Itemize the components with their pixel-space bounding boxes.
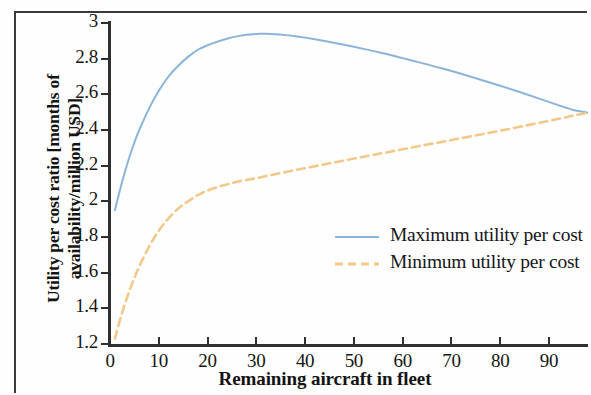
chart-figure: 1.21.41.61.822.22.42.62.83 0102030405060… (0, 0, 591, 395)
y-axis-title-line1: Utility per cost ratio [months of (43, 24, 64, 354)
y-axis-title-line2: availability/million USD] (64, 24, 85, 354)
x-tick-label: 90 (540, 350, 558, 372)
y-tick (101, 343, 108, 345)
legend-label: Maximum utility per cost (390, 224, 583, 246)
legend-swatch-solid-icon (334, 229, 380, 241)
x-axis-title: Remaining aircraft in fleet (110, 368, 540, 390)
y-tick (101, 58, 108, 60)
legend-item[interactable]: Maximum utility per cost (334, 221, 584, 248)
y-tick (101, 200, 108, 202)
y-tick (101, 307, 108, 309)
chart-legend: Maximum utility per costMinimum utility … (334, 221, 584, 275)
y-tick (101, 22, 108, 24)
legend-item[interactable]: Minimum utility per cost (334, 248, 584, 275)
legend-swatch-dashed-icon (334, 256, 380, 268)
legend-label: Minimum utility per cost (390, 251, 580, 273)
y-tick (101, 165, 108, 167)
y-tick (101, 93, 108, 95)
y-axis-title: Utility per cost ratio [months of availa… (43, 24, 84, 354)
y-tick (101, 129, 108, 131)
y-tick-label: 3 (89, 10, 98, 32)
series-curves (110, 23, 588, 344)
x-axis-line (108, 344, 588, 347)
y-tick (101, 236, 108, 238)
y-tick (101, 272, 108, 274)
y-tick-label: 2 (89, 188, 98, 210)
plot-area (110, 23, 588, 344)
series-line-0 (115, 34, 588, 211)
